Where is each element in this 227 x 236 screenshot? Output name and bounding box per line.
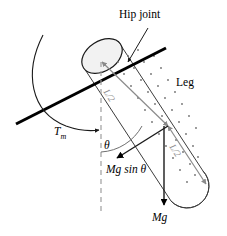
label-torque: Tm — [54, 122, 66, 141]
hip-joint-leader-line — [128, 28, 148, 62]
label-hip-joint: Hip joint — [119, 9, 160, 21]
leg-cylinder — [75, 31, 209, 207]
label-leg: Leg — [176, 77, 194, 89]
biomechanics-leg-diagram: Hip joint Leg Tm θ Mg sin θ Mg L/2 L/2 — [0, 0, 227, 236]
label-theta-angle: θ — [104, 140, 110, 152]
torque-subscript: m — [60, 132, 66, 141]
label-mg-weight: Mg — [152, 212, 167, 224]
diagram-canvas — [0, 0, 227, 236]
label-mg-sin-theta: Mg sin θ — [106, 164, 146, 176]
